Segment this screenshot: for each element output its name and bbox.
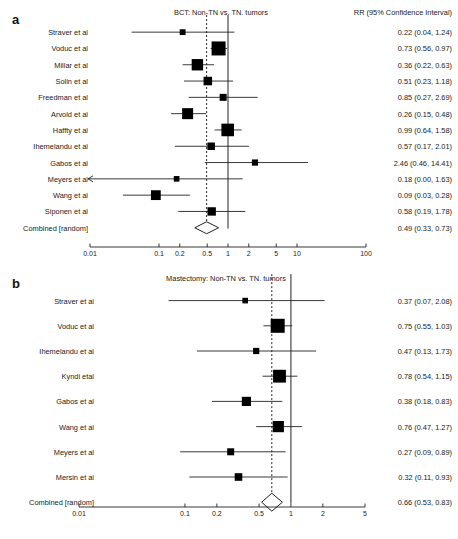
- effect-estimate-text: 0.58 (0.19, 1.78): [286, 207, 452, 216]
- effect-estimate-text: 0.51 (0.23, 1.18): [286, 77, 452, 86]
- effect-estimate-marker: [242, 397, 251, 406]
- effect-estimate-marker: [235, 473, 243, 481]
- forest-plot-panel-b: b Mastectomy: Non-TN vs. TN. tumors Stra…: [0, 270, 458, 539]
- effect-estimate-text: 0.78 (0.54, 1.15): [300, 372, 452, 381]
- study-row: [197, 348, 316, 354]
- x-axis-tick-label: 0.5: [254, 510, 264, 517]
- study-row: [178, 207, 245, 215]
- effect-estimate-marker: [227, 448, 234, 455]
- x-axis-tick-label: 2: [321, 510, 325, 517]
- study-label: Siponen et al: [8, 207, 88, 216]
- effect-estimate-marker: [273, 370, 286, 383]
- effect-estimate-marker: [242, 298, 248, 304]
- effect-estimate-text: 0.75 (0.55, 1.03): [300, 321, 452, 330]
- combined-row-label: Combined [random]: [6, 498, 94, 507]
- effect-estimate-marker: [253, 348, 259, 354]
- study-row: [184, 77, 233, 86]
- effect-estimate-text: 2.46 (0.46, 14.41): [286, 158, 452, 167]
- study-row: [211, 41, 227, 55]
- effect-estimate-marker: [180, 29, 186, 35]
- x-axis-tick-label: 1: [226, 250, 230, 257]
- x-axis-tick-label: 0.01: [83, 250, 97, 257]
- study-label: Haffty et al: [8, 125, 88, 134]
- study-label: Ihemelandu et al: [8, 142, 88, 151]
- study-label: Straver et al: [6, 296, 94, 305]
- effect-estimate-marker: [273, 421, 284, 432]
- study-label: Gabos et al: [8, 158, 88, 167]
- effect-estimate-text: 0.99 (0.64, 1.58): [286, 125, 452, 134]
- pooled-effect-diamond: [195, 222, 219, 234]
- study-row: [175, 143, 249, 151]
- x-axis-tick-label: 0.1: [180, 510, 190, 517]
- x-axis-tick-label: 5: [363, 510, 367, 517]
- study-label: Straver et al: [8, 28, 88, 37]
- combined-effect-text: 0.66 (0.53, 0.83): [300, 498, 452, 507]
- study-label: Millar et al: [8, 60, 88, 69]
- effect-estimate-marker: [192, 59, 203, 70]
- effect-estimate-text: 0.85 (0.27, 2.69): [286, 93, 452, 102]
- effect-estimate-text: 0.32 (0.11, 0.93): [300, 473, 452, 482]
- effect-estimate-text: 0.73 (0.56, 0.97): [286, 44, 452, 53]
- effect-estimate-marker: [221, 124, 234, 137]
- study-label: Wang et al: [6, 422, 94, 431]
- study-row: [256, 421, 302, 432]
- x-axis-tick-label: 0.01: [72, 510, 86, 517]
- study-label: Solin et al: [8, 77, 88, 86]
- effect-estimate-marker: [204, 77, 213, 86]
- pooled-effect-diamond: [262, 493, 283, 511]
- study-row: [183, 59, 215, 70]
- x-axis-tick-label: 1: [289, 510, 293, 517]
- x-axis-tick-label: 2: [247, 250, 251, 257]
- effect-estimate-text: 0.36 (0.22, 0.63): [286, 60, 452, 69]
- study-label: Gabos et al: [6, 397, 94, 406]
- effect-estimate-marker: [151, 190, 161, 200]
- study-row: [263, 370, 298, 383]
- study-label: Voduc et al: [8, 44, 88, 53]
- x-axis-tick-label: 100: [360, 250, 372, 257]
- effect-estimate-text: 0.38 (0.18, 0.83): [300, 397, 452, 406]
- effect-estimate-text: 0.18 (0.00, 1.63): [286, 174, 452, 183]
- study-label: Wang et al: [8, 191, 88, 200]
- x-axis-tick-label: 0.2: [175, 250, 185, 257]
- study-label: Kyndi etal: [6, 372, 94, 381]
- combined-row-label: Combined [random]: [8, 223, 88, 232]
- study-label: Freedman et al: [8, 93, 88, 102]
- study-row: [132, 29, 235, 35]
- x-axis-tick-label: 5: [274, 250, 278, 257]
- effect-estimate-marker: [252, 159, 258, 165]
- effect-estimate-text: 0.57 (0.17, 2.01): [286, 142, 452, 151]
- study-row: [189, 473, 287, 481]
- study-row: [189, 94, 258, 101]
- study-row: [263, 319, 292, 333]
- combined-effect-text: 0.49 (0.33, 0.73): [286, 223, 452, 232]
- effect-estimate-marker: [220, 94, 227, 101]
- study-label: Ihemelandu et al: [6, 347, 94, 356]
- study-row: [180, 448, 285, 455]
- study-label: Meyers et al: [6, 447, 94, 456]
- effect-estimate-text: 0.27 (0.09, 0.89): [300, 447, 452, 456]
- study-row: [215, 124, 242, 137]
- x-axis-tick-label: 0.1: [154, 250, 164, 257]
- effect-estimate-text: 0.26 (0.15, 0.48): [286, 109, 452, 118]
- study-label: Mersin et al: [6, 473, 94, 482]
- effect-estimate-text: 0.37 (0.07, 2.08): [300, 296, 452, 305]
- study-label: Voduc et al: [6, 321, 94, 330]
- x-axis-tick-label: 0.5: [202, 250, 212, 257]
- effect-estimate-marker: [174, 176, 180, 182]
- effect-estimate-text: 0.47 (0.13, 1.73): [300, 347, 452, 356]
- x-axis-tick-label: 10: [293, 250, 301, 257]
- effect-estimate-marker: [182, 108, 193, 119]
- effect-estimate-text: 0.22 (0.04, 1.24): [286, 28, 452, 37]
- effect-estimate-marker: [207, 143, 215, 151]
- effect-estimate-marker: [212, 41, 226, 55]
- x-axis-tick-label: 0.2: [212, 510, 222, 517]
- effect-estimate-text: 0.09 (0.03, 0.28): [286, 191, 452, 200]
- study-row: [88, 176, 243, 182]
- study-row: [171, 108, 206, 119]
- effect-estimate-marker: [271, 319, 285, 333]
- study-row: [123, 190, 190, 200]
- effect-estimate-marker: [207, 207, 215, 215]
- study-label: Arvold et al: [8, 109, 88, 118]
- effect-estimate-text: 0.76 (0.47, 1.27): [300, 422, 452, 431]
- forest-plot-panel-a: a BCT: Non-TN vs. TN. tumors RR (95% Con…: [0, 0, 458, 270]
